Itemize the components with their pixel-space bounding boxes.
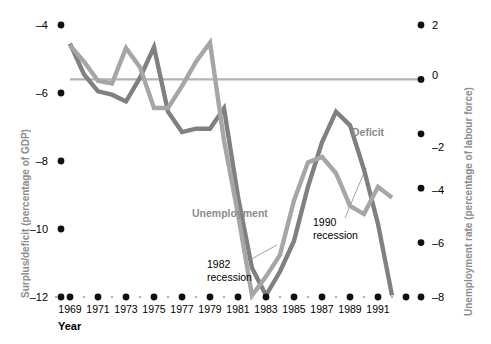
x-axis-major-tick-dot: [207, 294, 214, 301]
x-axis-major-tick-dot: [403, 294, 410, 301]
x-axis-minor-tick-dot: [279, 296, 281, 298]
left-axis-title: Surplus/deficit (percentage of GDP): [20, 129, 31, 298]
x-axis-minor-tick-dot: [335, 296, 337, 298]
chart-container: –4 –6 –8 –10 –12 2 0 –2 –4 –6 –8 Surplus…: [0, 0, 491, 344]
left-axis-tick-dot: [58, 294, 65, 301]
recession-1990-word: recession: [313, 229, 358, 241]
x-axis-minor-tick-dot: [363, 296, 365, 298]
x-axis-major-tick-dot: [179, 294, 186, 301]
right-axis-tick-label: –4: [432, 184, 444, 196]
left-axis-tick-dot: [58, 90, 65, 97]
deficit-series-label: Deficit: [352, 126, 384, 138]
x-axis-major-tick-dot: [263, 294, 270, 301]
x-axis-title: Year: [58, 320, 81, 332]
right-axis-tick-label: 2: [432, 19, 438, 31]
x-axis-minor-tick-dot: [195, 296, 197, 298]
x-axis-major-tick-dot: [291, 294, 298, 301]
right-axis-tick-label: 0: [432, 69, 438, 81]
x-axis-minor-tick-dot: [223, 296, 225, 298]
x-axis-minor-tick-dot: [251, 296, 253, 298]
x-axis-major-tick-dot: [123, 294, 130, 301]
right-axis-tick-label: –6: [432, 237, 444, 249]
recession-1982-year: 1982: [207, 258, 230, 270]
chart-plot-area: [0, 0, 491, 344]
x-axis-minor-tick-dot: [139, 296, 141, 298]
x-axis-major-tick-dot: [375, 294, 382, 301]
right-axis-tick-dot: [418, 294, 425, 301]
right-axis-tick-dot: [418, 239, 425, 246]
left-axis-tick-label: –6: [22, 87, 48, 99]
left-axis-tick-label: –4: [22, 19, 48, 31]
right-axis-title: Unemployment rate (percentage of labour …: [463, 87, 474, 316]
x-axis-tick-label: 1991: [360, 303, 396, 315]
x-axis-major-tick-dot: [347, 294, 354, 301]
right-axis-tick-dot: [418, 185, 425, 192]
x-axis-major-tick-dot: [235, 294, 242, 301]
x-axis-minor-tick-dot: [391, 296, 393, 298]
recession-1982-annotation: 1982 recession: [207, 258, 252, 284]
right-axis-tick-dot: [418, 76, 425, 83]
recession-1990-annotation: 1990 recession: [313, 216, 358, 242]
right-axis-tick-label: –2: [432, 141, 444, 153]
right-axis-tick-dot: [418, 130, 425, 137]
left-axis-tick-dot: [58, 226, 65, 233]
x-axis-major-tick-dot: [67, 294, 74, 301]
x-axis-major-tick-dot: [151, 294, 158, 301]
x-axis-minor-tick-dot: [307, 296, 309, 298]
right-axis-tick-dot: [418, 22, 425, 29]
recession-1990-year: 1990: [313, 216, 336, 228]
x-axis-minor-tick-dot: [83, 296, 85, 298]
x-axis-major-tick-dot: [319, 294, 326, 301]
unemployment-series-label: Unemployment: [192, 207, 268, 219]
right-axis-tick-label: –8: [432, 291, 444, 303]
left-axis-tick-dot: [58, 158, 65, 165]
recession-1982-word: recession: [207, 271, 252, 283]
x-axis-minor-tick-dot: [111, 296, 113, 298]
x-axis-minor-tick-dot: [55, 296, 57, 298]
x-axis-minor-tick-dot: [167, 296, 169, 298]
x-axis-major-tick-dot: [95, 294, 102, 301]
left-axis-tick-dot: [58, 22, 65, 29]
